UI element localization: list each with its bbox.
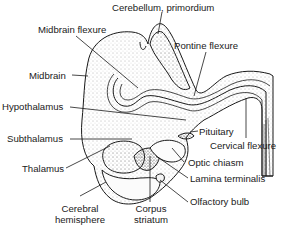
label-corpus-striatum-line1: Corpus — [126, 203, 176, 214]
label-midbrain: Midbrain — [29, 70, 66, 81]
label-corpus-striatum: Corpus striatum — [126, 203, 176, 225]
label-midbrain-flexure: Midbrain flexure — [38, 24, 106, 35]
label-olfactory-bulb: Olfactory bulb — [190, 196, 249, 207]
label-hypothalamus: Hypothalamus — [2, 101, 63, 112]
label-pituitary: Pituitary — [199, 126, 234, 137]
label-optic-chiasm: Optic chiasm — [188, 157, 243, 168]
label-cerebral-hemisphere-line1: Cerebral — [50, 203, 110, 214]
label-cervical-flexure: Cervical flexure — [210, 140, 276, 151]
label-subthalamus: Subthalamus — [7, 133, 63, 144]
label-lamina-terminalis: Lamina terminalis — [190, 173, 265, 184]
label-cerebral-hemisphere-line2: hemisphere — [50, 214, 110, 225]
label-thalamus: Thalamus — [22, 163, 64, 174]
label-pontine-flexure: Pontine flexure — [174, 40, 238, 51]
label-cerebellum-primordium: Cerebellum, primordium — [112, 2, 214, 13]
anatomy-diagram: Cerebellum, primordium Midbrain flexure … — [0, 0, 281, 232]
label-cerebral-hemisphere: Cerebral hemisphere — [50, 203, 110, 225]
label-corpus-striatum-line2: striatum — [126, 214, 176, 225]
